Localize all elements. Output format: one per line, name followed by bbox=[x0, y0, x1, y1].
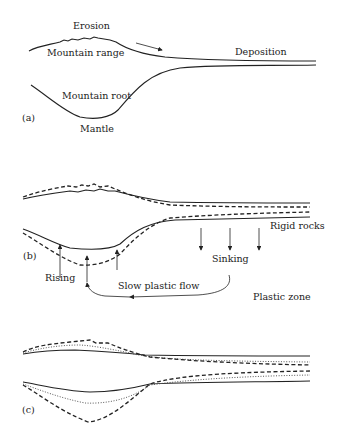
plastic-zone-label: Plastic zone bbox=[253, 291, 311, 302]
panel-a-label: (a) bbox=[22, 112, 35, 123]
root-line-b-dashed bbox=[23, 212, 310, 265]
panel-a: Erosion Mountain range Deposition Mounta… bbox=[22, 20, 316, 134]
panel-b: Rigid rocks (b) Sinking Rising Slow plas… bbox=[23, 184, 325, 302]
surface-line-c-dotted bbox=[23, 345, 310, 362]
panel-c: (c) bbox=[22, 340, 310, 422]
root-line-c-solid bbox=[23, 381, 310, 392]
root-line-b-solid bbox=[23, 217, 310, 249]
root-line-c-dashed bbox=[23, 371, 310, 422]
sinking-label: Sinking bbox=[212, 253, 249, 264]
surface-line-c-solid bbox=[23, 350, 310, 356]
surface-line-b-solid bbox=[23, 189, 310, 203]
rising-label: Rising bbox=[45, 272, 75, 283]
surface-line-c-dashed bbox=[23, 340, 310, 365]
erosion-flow-arrow bbox=[136, 43, 162, 50]
panel-c-label: (c) bbox=[22, 404, 35, 415]
surface-line-b-dashed bbox=[23, 184, 310, 207]
slow-plastic-flow-label: Slow plastic flow bbox=[118, 280, 199, 291]
panel-b-label: (b) bbox=[23, 250, 37, 261]
root-line-c-dotted bbox=[23, 375, 310, 403]
mantle-label: Mantle bbox=[80, 123, 114, 134]
erosion-label: Erosion bbox=[73, 20, 110, 31]
rigid-rocks-label: Rigid rocks bbox=[270, 220, 325, 231]
mountain-root-label: Mountain root bbox=[62, 90, 131, 101]
deposition-label: Deposition bbox=[235, 46, 287, 57]
mountain-range-label: Mountain range bbox=[47, 47, 125, 58]
isostasy-diagram: Erosion Mountain range Deposition Mounta… bbox=[0, 0, 339, 438]
